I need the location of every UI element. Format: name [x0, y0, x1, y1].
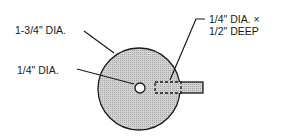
side-hole-hidden	[155, 82, 181, 93]
center-hole	[135, 83, 145, 93]
disk-dimension-diagram: 1-3/4" DIA. 1/4" DIA. 1/4" DIA. × 1/2" D…	[0, 0, 289, 139]
label-side-hole-line2: 1/2" DEEP	[209, 25, 259, 37]
label-center-hole: 1/4" DIA.	[17, 64, 59, 76]
label-outer-diameter: 1-3/4" DIA.	[15, 24, 66, 36]
leader-outer-diameter	[84, 31, 114, 53]
dowel-rod	[180, 82, 203, 93]
label-side-hole-line1: 1/4" DIA. ×	[209, 13, 260, 25]
